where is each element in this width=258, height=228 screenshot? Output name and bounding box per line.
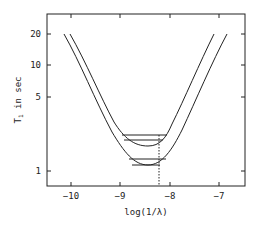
x-axis-label: log(1/λ): [124, 207, 167, 217]
x-tick-label: −9: [115, 191, 126, 201]
x-tick-label: −7: [214, 191, 225, 201]
y-ticks: [47, 34, 245, 171]
x-ticks: [71, 14, 219, 186]
x-tick-label: −10: [63, 191, 79, 201]
y-tick-label: 10: [30, 60, 41, 70]
y-tick-label: 20: [30, 29, 41, 39]
y-axis-label: T1 in sec: [13, 77, 24, 124]
x-tick-label: −8: [165, 191, 176, 201]
y-tick-label: 5: [36, 92, 41, 102]
plot-frame: [47, 14, 245, 186]
outer-curve: [64, 34, 227, 165]
chart: −10 −9 −8 −7 20 10 5 1 log(1/λ) T1 in se…: [0, 0, 258, 228]
y-tick-label: 1: [36, 166, 41, 176]
